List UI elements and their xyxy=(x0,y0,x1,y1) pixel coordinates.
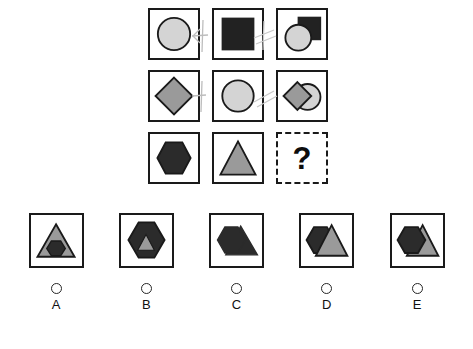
triangle-shape xyxy=(214,134,262,182)
answer-option-d[interactable]: D xyxy=(298,213,356,311)
matrix-row-1 xyxy=(148,8,328,60)
answer-radio-d[interactable] xyxy=(321,283,332,294)
matrix-cell-r2c3[interactable] xyxy=(276,70,328,122)
matrix-cell-r1c1[interactable] xyxy=(148,8,200,60)
answer-label-d: D xyxy=(322,298,331,311)
matrix-cell-r1c2[interactable] xyxy=(212,8,264,60)
answer-option-c[interactable]: C xyxy=(208,213,266,311)
square-shape xyxy=(214,10,262,58)
answer-label-c: C xyxy=(232,298,241,311)
hexagon-front-of-triangle-shape xyxy=(392,215,443,266)
hexagon-behind-triangle-shape xyxy=(301,215,352,266)
answer-option-b-figure[interactable] xyxy=(119,213,174,268)
answer-options: A B xyxy=(0,213,473,311)
answer-option-c-figure[interactable] xyxy=(209,213,264,268)
answer-option-b[interactable]: B xyxy=(117,213,175,311)
matrix-cell-r3c1[interactable] xyxy=(148,132,200,184)
answer-option-e[interactable]: E xyxy=(388,213,446,311)
answer-label-a: A xyxy=(52,298,61,311)
matrix-cell-missing[interactable]: ? xyxy=(276,132,328,184)
answer-option-a[interactable]: A xyxy=(27,213,85,311)
answer-label-b: B xyxy=(142,298,151,311)
answer-option-a-figure[interactable] xyxy=(29,213,84,268)
answer-radio-e[interactable] xyxy=(412,283,423,294)
hexagon-with-triangle-shape xyxy=(121,215,172,266)
answer-option-e-figure[interactable] xyxy=(390,213,445,268)
hexagon-shape xyxy=(150,134,198,182)
square-circle-overlap-shape xyxy=(278,10,326,58)
hexagon-triangle-overlap-dark-shape xyxy=(211,215,262,266)
answer-radio-a[interactable] xyxy=(51,283,62,294)
matrix-cell-r2c2[interactable] xyxy=(212,70,264,122)
matrix-row-3: ? xyxy=(148,132,328,184)
answer-radio-c[interactable] xyxy=(231,283,242,294)
matrix-grid: ? xyxy=(148,8,328,184)
matrix-cell-r1c3[interactable] xyxy=(276,8,328,60)
circle-shape xyxy=(214,72,262,120)
answer-options-row: A B xyxy=(0,213,473,311)
question-mark-label: ? xyxy=(278,134,326,182)
answer-option-d-figure[interactable] xyxy=(299,213,354,268)
matrix-row-2 xyxy=(148,70,328,122)
triangle-with-hexagon-shape xyxy=(31,215,82,266)
matrix-cell-r3c2[interactable] xyxy=(212,132,264,184)
diamond-shape xyxy=(150,72,198,120)
diamond-circle-overlap-shape xyxy=(278,72,326,120)
matrix-cell-r2c1[interactable] xyxy=(148,70,200,122)
answer-radio-b[interactable] xyxy=(141,283,152,294)
answer-label-e: E xyxy=(413,298,422,311)
circle-shape xyxy=(150,10,198,58)
puzzle-canvas: ? xyxy=(0,0,473,349)
